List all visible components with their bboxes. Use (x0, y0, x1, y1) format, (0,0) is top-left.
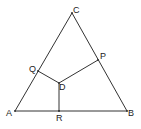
point-r-marker (58, 110, 60, 112)
point-p-label: P (100, 51, 106, 61)
point-a-label: A (6, 108, 12, 118)
point-r-label: R (56, 113, 63, 123)
vertex-labels: ABCPQDR (6, 5, 134, 123)
point-b-label: B (128, 108, 134, 118)
point-a-marker (14, 110, 16, 112)
diagram-svg: ABCPQDR (0, 0, 141, 129)
segment-bc (72, 13, 127, 111)
point-q-marker (37, 70, 39, 72)
point-d-label: D (59, 82, 66, 92)
segment-dq (38, 71, 59, 83)
segment-ca (15, 13, 72, 111)
geometry-diagram: ABCPQDR (0, 0, 141, 129)
point-c-label: C (73, 5, 80, 15)
segment-dp (59, 60, 98, 83)
point-q-label: Q (29, 64, 36, 74)
vertex-points (14, 12, 128, 112)
segments (15, 13, 127, 111)
point-p-marker (97, 59, 99, 61)
